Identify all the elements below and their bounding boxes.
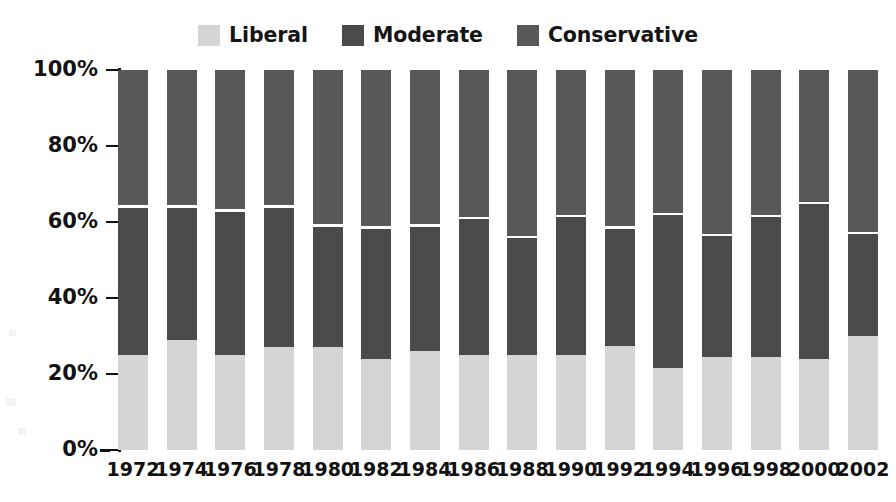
segment-divider-1988 xyxy=(507,236,537,239)
segment-conservative-1988[interactable] xyxy=(507,70,537,237)
bar-2000[interactable] xyxy=(799,70,829,450)
segment-liberal-1978[interactable] xyxy=(264,347,294,450)
x-tick-label-1998: 1998 xyxy=(739,458,792,480)
segment-liberal-1994[interactable] xyxy=(653,368,683,450)
segment-liberal-1972[interactable] xyxy=(118,355,148,450)
legend-label: Liberal xyxy=(229,23,308,47)
segment-divider-1990 xyxy=(556,215,586,218)
segment-moderate-1996[interactable] xyxy=(702,235,732,357)
x-tick-label-1988: 1988 xyxy=(496,458,549,480)
segment-liberal-1998[interactable] xyxy=(751,357,781,450)
bar-1978[interactable] xyxy=(264,70,294,450)
plot-area xyxy=(118,70,878,450)
segment-conservative-1980[interactable] xyxy=(313,70,343,226)
segment-conservative-1994[interactable] xyxy=(653,70,683,214)
legend-label: Conservative xyxy=(548,23,698,47)
segment-moderate-1978[interactable] xyxy=(264,207,294,348)
bar-1988[interactable] xyxy=(507,70,537,450)
segment-moderate-1972[interactable] xyxy=(118,207,148,355)
segment-liberal-2000[interactable] xyxy=(799,359,829,450)
scan-artifact xyxy=(6,398,16,406)
segment-moderate-1986[interactable] xyxy=(459,218,489,355)
segment-moderate-1994[interactable] xyxy=(653,214,683,368)
segment-divider-1982 xyxy=(361,226,391,229)
bar-1974[interactable] xyxy=(167,70,197,450)
segment-divider-1980 xyxy=(313,224,343,227)
bar-1972[interactable] xyxy=(118,70,148,450)
segment-conservative-1982[interactable] xyxy=(361,70,391,228)
legend-item-moderate[interactable]: Moderate xyxy=(342,23,483,47)
segment-moderate-1992[interactable] xyxy=(605,228,635,346)
x-tick-label-1980: 1980 xyxy=(301,458,354,480)
segment-divider-1996 xyxy=(702,234,732,237)
bar-1994[interactable] xyxy=(653,70,683,450)
segment-liberal-1982[interactable] xyxy=(361,359,391,450)
segment-conservative-1996[interactable] xyxy=(702,70,732,235)
segment-moderate-1984[interactable] xyxy=(410,226,440,351)
segment-liberal-1986[interactable] xyxy=(459,355,489,450)
segment-moderate-1980[interactable] xyxy=(313,226,343,348)
segment-conservative-1972[interactable] xyxy=(118,70,148,207)
bar-1976[interactable] xyxy=(215,70,245,450)
segment-liberal-1980[interactable] xyxy=(313,347,343,450)
segment-conservative-1974[interactable] xyxy=(167,70,197,207)
segment-liberal-1976[interactable] xyxy=(215,355,245,450)
bar-1982[interactable] xyxy=(361,70,391,450)
y-tick-mark xyxy=(106,69,118,72)
segment-conservative-1990[interactable] xyxy=(556,70,586,216)
segment-divider-1976 xyxy=(215,209,245,212)
scan-artifact xyxy=(18,428,26,435)
bar-1986[interactable] xyxy=(459,70,489,450)
bar-1980[interactable] xyxy=(313,70,343,450)
y-tick-mark xyxy=(106,221,118,224)
segment-liberal-1990[interactable] xyxy=(556,355,586,450)
segment-conservative-1986[interactable] xyxy=(459,70,489,218)
segment-liberal-1984[interactable] xyxy=(410,351,440,450)
segment-moderate-1998[interactable] xyxy=(751,216,781,357)
bar-1998[interactable] xyxy=(751,70,781,450)
segment-conservative-1978[interactable] xyxy=(264,70,294,207)
legend-item-liberal[interactable]: Liberal xyxy=(198,23,308,47)
segment-liberal-1992[interactable] xyxy=(605,346,635,451)
bar-2002[interactable] xyxy=(848,70,878,450)
segment-conservative-1998[interactable] xyxy=(751,70,781,216)
stacked-bar-chart: LiberalModerateConservative 100%80%60%40… xyxy=(0,0,896,502)
bar-1992[interactable] xyxy=(605,70,635,450)
bar-1984[interactable] xyxy=(410,70,440,450)
segment-conservative-2002[interactable] xyxy=(848,70,878,233)
segment-divider-1992 xyxy=(605,226,635,229)
segment-moderate-2002[interactable] xyxy=(848,233,878,336)
segment-moderate-1974[interactable] xyxy=(167,207,197,340)
segment-conservative-1984[interactable] xyxy=(410,70,440,226)
y-tick-mark xyxy=(106,449,118,452)
x-tick-label-2000: 2000 xyxy=(788,458,841,480)
segment-liberal-1988[interactable] xyxy=(507,355,537,450)
scan-artifact xyxy=(9,330,16,336)
x-tick-label-1976: 1976 xyxy=(204,458,257,480)
segment-conservative-1976[interactable] xyxy=(215,70,245,211)
segment-moderate-1988[interactable] xyxy=(507,237,537,355)
y-tick-mark xyxy=(106,145,118,148)
segment-liberal-2002[interactable] xyxy=(848,336,878,450)
x-tick-label-1982: 1982 xyxy=(350,458,403,480)
y-tick-mark xyxy=(106,373,118,376)
bar-1990[interactable] xyxy=(556,70,586,450)
bar-1996[interactable] xyxy=(702,70,732,450)
segment-conservative-1992[interactable] xyxy=(605,70,635,228)
x-tick-label-1986: 1986 xyxy=(447,458,500,480)
segment-moderate-1990[interactable] xyxy=(556,216,586,355)
segment-moderate-1982[interactable] xyxy=(361,228,391,359)
segment-liberal-1974[interactable] xyxy=(167,340,197,450)
x-tick-label-1974: 1974 xyxy=(155,458,208,480)
segment-moderate-1976[interactable] xyxy=(215,211,245,355)
segment-liberal-1996[interactable] xyxy=(702,357,732,450)
segment-moderate-2000[interactable] xyxy=(799,203,829,359)
legend-item-conservative[interactable]: Conservative xyxy=(517,23,698,47)
segment-divider-1998 xyxy=(751,215,781,218)
x-tick-label-1984: 1984 xyxy=(399,458,452,480)
segment-conservative-2000[interactable] xyxy=(799,70,829,203)
segment-divider-1974 xyxy=(167,205,197,208)
segment-divider-2002 xyxy=(848,232,878,235)
segment-divider-1994 xyxy=(653,213,683,216)
y-tick-label: 20% xyxy=(48,361,98,385)
